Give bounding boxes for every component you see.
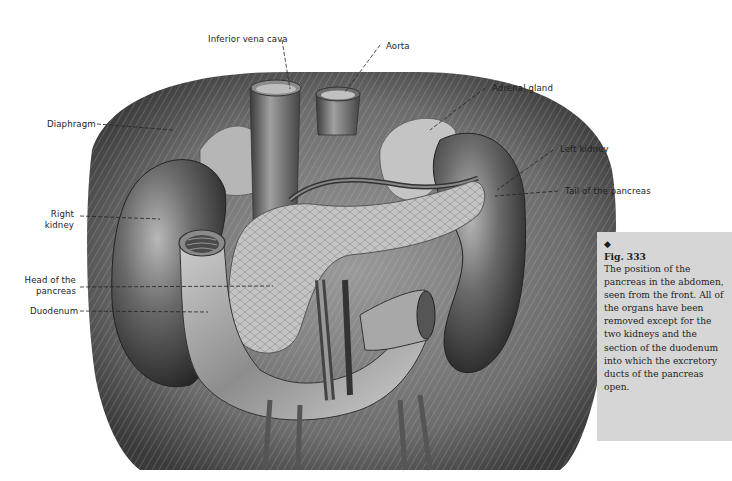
label-inferior-vena-cava: Inferior vena cava: [208, 34, 288, 45]
figure-caption-box: ◆ Fig. 333 The position of the pancreas …: [597, 232, 732, 441]
label-right-kidney-line2: kidney: [44, 220, 74, 231]
label-head-of-pancreas-line1: Head of the: [20, 275, 76, 286]
figure-number: Fig. 333: [604, 250, 726, 263]
caption-text: The position of the pancreas in the abdo…: [604, 263, 726, 394]
label-tail-of-pancreas: Tail of the pancreas: [565, 186, 651, 197]
label-adrenal-gland: Adrenal gland: [492, 83, 553, 94]
label-aorta: Aorta: [386, 41, 410, 52]
label-head-of-pancreas-line2: pancreas: [20, 286, 76, 297]
label-diaphragm: Diaphragm: [47, 119, 96, 130]
label-right-kidney-line1: Right: [44, 209, 74, 220]
label-left-kidney: Left kidney: [560, 144, 609, 155]
label-duodenum: Duodenum: [30, 306, 78, 317]
diamond-bullet-icon: ◆: [604, 239, 726, 250]
